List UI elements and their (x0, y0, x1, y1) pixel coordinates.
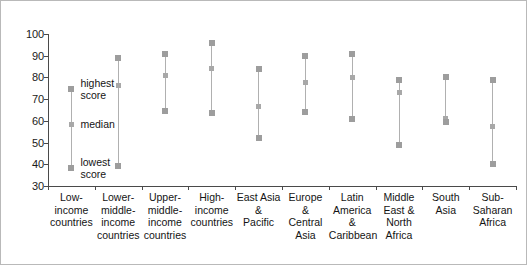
lowest-score-point (443, 119, 449, 125)
x-axis-category-labels: Low-incomecountriesLower-middle-incomeco… (48, 191, 517, 263)
x-category-label-line: income (188, 204, 235, 217)
y-tick-label: 100 (26, 28, 44, 40)
median-point (397, 90, 402, 95)
median-point (69, 122, 74, 127)
x-category-label-line: Lower- (95, 191, 142, 204)
range-connector-line (352, 54, 353, 119)
x-tick-mark (376, 186, 377, 190)
x-category-label-line: middle- (142, 204, 189, 217)
x-category-label: Sub-SaharanAfrica (469, 191, 516, 229)
x-category-label-line: countries (48, 216, 95, 229)
annotation-line: score (80, 168, 110, 180)
highest-score-point (443, 74, 449, 80)
median-point (350, 75, 355, 80)
lowest-score-point (209, 110, 215, 116)
y-axis-tick-labels: 10090807060504030 (15, 1, 44, 265)
x-category-label-line: Sub-Saharan (469, 191, 516, 216)
x-category-label-line: South (422, 191, 469, 204)
x-category-label-line: Central (282, 216, 329, 229)
x-category-label: Europe&CentralAsia (282, 191, 329, 241)
annotation-median: median (80, 118, 114, 130)
x-category-label-line: income (95, 216, 142, 229)
lowest-score-point (68, 165, 74, 171)
median-point (256, 104, 261, 109)
x-category-label: Low-incomecountries (48, 191, 95, 229)
annotation-line: score (80, 89, 114, 101)
range-connector-line (71, 89, 72, 167)
y-tick-label: 70 (32, 93, 44, 105)
annotation-line: highest (80, 77, 114, 89)
highest-score-point (302, 53, 308, 59)
highest-score-point (490, 77, 496, 83)
annotation-lowest-score: lowestscore (80, 156, 110, 180)
plot-area (48, 34, 516, 186)
y-tick-label: 60 (32, 115, 44, 127)
annotation-line: lowest (80, 156, 110, 168)
x-tick-mark (188, 186, 189, 190)
x-tick-mark (282, 186, 283, 190)
x-category-label-line: North (376, 216, 423, 229)
x-category-label: High-incomecountries (188, 191, 235, 229)
range-connector-line (492, 80, 493, 165)
x-tick-mark (469, 186, 470, 190)
lowest-score-point (302, 109, 308, 115)
x-category-label-line: Asia (282, 229, 329, 242)
range-connector-line (211, 43, 212, 114)
x-category-label-line: & (329, 216, 376, 229)
x-category-label-line: Upper- (142, 191, 189, 204)
y-tick-label: 90 (32, 50, 44, 62)
y-tick-label: 80 (32, 71, 44, 83)
x-category-label-line: income (142, 216, 189, 229)
x-category-label: MiddleEast &NorthAfrica (376, 191, 423, 241)
annotation-highest-score: highestscore (80, 77, 114, 101)
x-category-label-line: Asia (422, 204, 469, 217)
lowest-score-point (490, 161, 496, 167)
x-category-label-line: countries (142, 229, 189, 242)
x-tick-mark (48, 186, 49, 190)
y-tick-label: 50 (32, 137, 44, 149)
annotation-line: median (80, 118, 114, 130)
x-category-label: East Asia&Pacific (235, 191, 282, 229)
chart-frame: 10090807060504030 Low-incomecountriesLow… (0, 0, 527, 265)
highest-score-point (349, 51, 355, 57)
median-point (303, 80, 308, 85)
x-category-label-line: countries (95, 229, 142, 242)
x-tick-mark (235, 186, 236, 190)
highest-score-point (396, 77, 402, 83)
x-category-label-line: High- (188, 191, 235, 204)
x-category-label: Upper-middle-incomecountries (142, 191, 189, 241)
median-point (163, 73, 168, 78)
median-point (116, 83, 121, 88)
y-tick-label: 40 (32, 158, 44, 170)
x-category-label: Lower-middle-incomecountries (95, 191, 142, 241)
x-category-label: SouthAsia (422, 191, 469, 216)
x-tick-mark (422, 186, 423, 190)
y-tick-label: 30 (32, 180, 44, 192)
range-connector-line (118, 58, 119, 167)
x-tick-mark (329, 186, 330, 190)
x-category-label-line: & (282, 204, 329, 217)
x-tick-mark (516, 186, 517, 190)
x-category-label-line: America (329, 204, 376, 217)
x-category-label-line: income (48, 204, 95, 217)
highest-score-point (115, 55, 121, 61)
lowest-score-point (396, 142, 402, 148)
lowest-score-point (115, 163, 121, 169)
highest-score-point (209, 40, 215, 46)
x-category-label-line: East & (376, 204, 423, 217)
median-point (490, 124, 495, 129)
x-category-label-line: Africa (376, 229, 423, 242)
lowest-score-point (349, 116, 355, 122)
x-category-label-line: countries (188, 216, 235, 229)
x-category-label-line: & (235, 204, 282, 217)
x-tick-mark (95, 186, 96, 190)
lowest-score-point (162, 108, 168, 114)
x-category-label: LatinAmerica&Caribbean (329, 191, 376, 241)
x-category-label-line: Caribbean (329, 229, 376, 242)
x-category-label-line: East Asia (235, 191, 282, 204)
median-point (209, 66, 214, 71)
lowest-score-point (256, 135, 262, 141)
highest-score-point (162, 51, 168, 57)
x-category-label-line: Africa (469, 216, 516, 229)
x-category-label-line: Low- (48, 191, 95, 204)
